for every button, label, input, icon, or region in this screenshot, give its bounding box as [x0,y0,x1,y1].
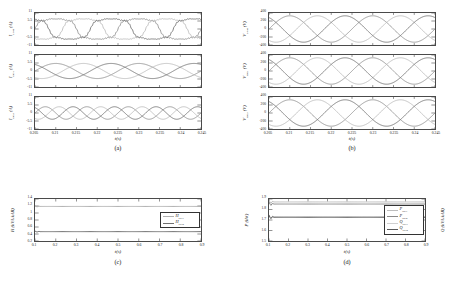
legend-subscript: DG2 [403,229,408,232]
panel-d-legend: PDG1PDG2QDG1QDG2 [384,205,424,234]
panel-d-xtick: 0.5 [345,244,350,248]
panel-d-xtick: 0.4 [325,244,330,248]
panel-d-ytick: 1.9 [254,196,266,200]
y-axis-unit: (kW) [244,214,249,223]
panel-d-xtick: 0.9 [424,244,429,248]
y-axis-right-symbol: Q [440,229,445,232]
panel-d-ytick: 1.6 [254,229,266,233]
panel-d-legend-swatch [387,216,398,217]
panel-d-xtick: 0.2 [285,244,290,248]
panel-d-legend-label: QDG2 [400,226,408,233]
panel-d-ytick: 1.7 [254,218,266,222]
figure-root: 115.50-5.5-11ILoad (A)115.50-5.5-11IDG1 … [0,0,450,300]
panel-d-xlabel: t(s) [344,250,350,255]
panel-d-xtick: 0.1 [266,244,271,248]
y-axis-symbol: P [244,224,249,227]
panel-d-legend-swatch [387,223,398,224]
panel-d-xtick: 0.7 [384,244,389,248]
panel-d-ytick: 1.5 [254,240,266,244]
panel-d-caption: (d) [343,259,350,265]
y-axis-right-unit: (kVA/kAR) [440,208,445,227]
panel-d-xtick: 0.3 [305,244,310,248]
panel-d: 1.91.81.71.61.50.10.20.30.40.50.60.70.80… [0,0,450,300]
panel-d-ylabel: P (kW) [245,214,250,227]
panel-d-legend-item: QDG2 [387,226,421,232]
panel-d-legend-swatch [387,210,398,211]
panel-d-ylabel-right: Q (kVA/kAR) [441,208,446,232]
panel-d-ytick: 1.8 [254,207,266,211]
panel-d-legend-swatch [387,229,398,230]
panel-d-xtick: 0.8 [404,244,409,248]
panel-d-xtick: 0.6 [364,244,369,248]
